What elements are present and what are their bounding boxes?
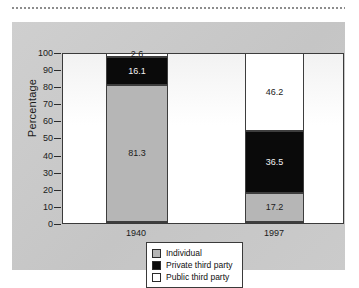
legend-swatch-individual-icon (152, 249, 161, 258)
y-tick-group-50: 50 (12, 138, 53, 139)
x-tick-label-1940: 1940 (106, 228, 166, 238)
bar-1940-segment-private[interactable]: 16.1 (106, 57, 168, 84)
legend-swatch-private-third-party-icon (152, 261, 161, 270)
y-tick-mark-100 (54, 53, 61, 54)
bar-1940-segment-individual[interactable]: 81.3 (106, 85, 168, 222)
legend-item-individual[interactable]: Individual (152, 247, 237, 259)
bar-1997-segment-individual[interactable]: 17.2 (245, 193, 304, 222)
y-tick-mark-30 (54, 173, 61, 174)
y-tick-group-30: 30 (12, 173, 53, 174)
y-tick-group-80: 80 (12, 87, 53, 88)
y-tick-label-60: 60 (13, 117, 53, 126)
bar-1997[interactable]: 17.2 36.5 46.2 (245, 54, 304, 223)
bar-1997-label-private: 36.5 (266, 158, 284, 167)
y-tick-label-20: 20 (13, 186, 53, 195)
y-tick-label-0: 0 (13, 220, 53, 229)
y-tick-mark-90 (54, 70, 61, 71)
legend-item-private-third-party[interactable]: Private third party (152, 259, 237, 271)
y-tick-mark-50 (54, 138, 61, 139)
y-tick-label-50: 50 (13, 134, 53, 143)
y-tick-label-80: 80 (13, 83, 53, 92)
legend-label-public-third-party: Public third party (166, 273, 229, 282)
y-tick-group-0: 0 (12, 224, 53, 225)
chart-legend: Individual Private third party Public th… (146, 242, 243, 288)
y-tick-label-90: 90 (13, 66, 53, 75)
bar-1997-label-public: 46.2 (266, 88, 284, 97)
bar-1940-segment-public[interactable]: 2.6 (106, 53, 168, 57)
y-tick-group-60: 60 (12, 121, 53, 122)
y-tick-label-40: 40 (13, 152, 53, 161)
bar-1940-label-private: 16.1 (128, 67, 146, 76)
bar-1997-segment-private[interactable]: 36.5 (245, 131, 304, 193)
y-tick-group-90: 90 (12, 70, 53, 71)
legend-item-public-third-party[interactable]: Public third party (152, 271, 237, 283)
y-tick-group-20: 20 (12, 190, 53, 191)
bar-1940-label-individual: 81.3 (128, 149, 146, 158)
y-tick-label-10: 10 (13, 203, 53, 212)
y-tick-mark-40 (54, 156, 61, 157)
y-tick-label-100: 100 (13, 49, 53, 58)
bar-1997-segment-public[interactable]: 46.2 (245, 53, 304, 131)
bar-1940[interactable]: 81.3 16.1 2.6 (106, 54, 168, 223)
plot-area: 81.3 16.1 2.6 17.2 36.5 46.2 (62, 53, 344, 224)
y-tick-mark-20 (54, 190, 61, 191)
bar-1997-label-individual: 17.2 (266, 203, 284, 212)
x-tick-label-1997: 1997 (244, 228, 304, 238)
y-tick-mark-60 (54, 121, 61, 122)
y-tick-label-30: 30 (13, 169, 53, 178)
y-tick-mark-70 (54, 104, 61, 105)
legend-label-private-third-party: Private third party (166, 261, 233, 270)
y-tick-mark-80 (54, 87, 61, 88)
top-divider-rule (12, 7, 345, 9)
y-tick-mark-0 (54, 224, 61, 225)
bar-1940-label-public: 2.6 (131, 50, 144, 59)
y-tick-mark-10 (54, 207, 61, 208)
y-tick-group-100: 100 (12, 53, 53, 54)
chart-figure-panel: Percentage 100 90 80 70 60 50 40 30 20 1… (12, 22, 345, 270)
y-tick-group-70: 70 (12, 104, 53, 105)
legend-swatch-public-third-party-icon (152, 273, 161, 282)
y-tick-group-10: 10 (12, 207, 53, 208)
y-tick-label-70: 70 (13, 100, 53, 109)
y-tick-group-40: 40 (12, 156, 53, 157)
legend-label-individual: Individual (166, 249, 202, 258)
